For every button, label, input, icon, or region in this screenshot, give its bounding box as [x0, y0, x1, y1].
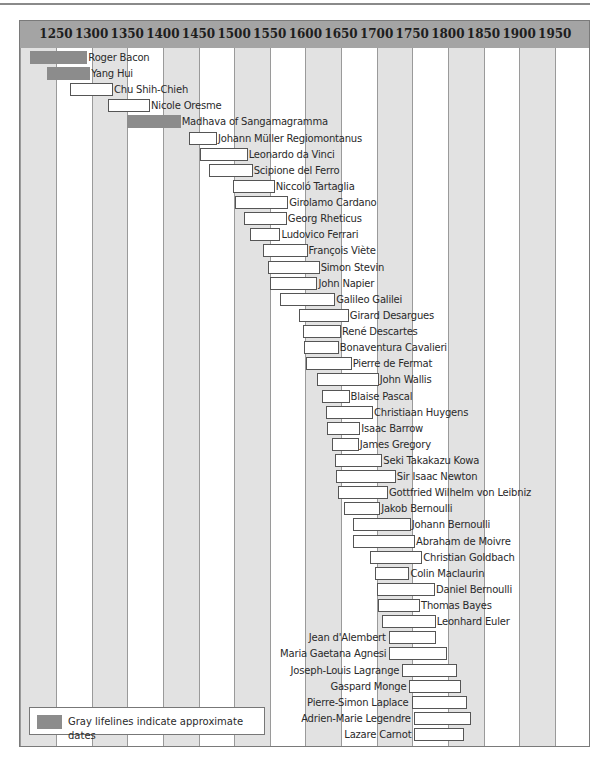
lifeline-label: René Descartes	[342, 325, 418, 338]
year-tick-1850: 1850	[464, 27, 504, 41]
lifeline-label: Isaac Barrow	[361, 422, 423, 435]
lifeline-label: Girard Desargues	[350, 309, 434, 322]
lifeline-bar	[336, 470, 396, 483]
lifeline-bar	[344, 502, 380, 515]
lifeline-bar	[70, 83, 113, 96]
year-tick-1900: 1900	[499, 27, 539, 41]
gridline-1350	[127, 48, 128, 746]
lifeline-label: Thomas Bayes	[421, 599, 492, 612]
stripe-1300	[92, 48, 128, 746]
lifeline-bar	[370, 551, 423, 564]
legend-swatch-approx	[37, 715, 62, 729]
lifeline-bar	[209, 164, 252, 177]
lifeline-label: Georg Rheticus	[288, 212, 362, 225]
lifeline-bar	[268, 261, 319, 274]
lifeline-label: Bonaventura Cavalieri	[340, 341, 447, 354]
year-tick-1400: 1400	[143, 27, 183, 41]
lifeline-bar	[47, 67, 90, 80]
lifeline-bar	[335, 454, 382, 467]
year-axis-header: 1250130013501400145015001550160016501700…	[20, 21, 589, 48]
lifeline-bar	[375, 567, 409, 580]
lifeline-bar	[244, 212, 287, 225]
lifeline-bar	[377, 583, 435, 596]
lifeline-label: Jakob Bernoulli	[381, 502, 452, 515]
lifeline-label: Christiaan Huygens	[374, 406, 468, 419]
lifeline-bar	[303, 325, 341, 338]
lifeline-bar	[233, 180, 274, 193]
year-tick-1550: 1550	[250, 27, 290, 41]
lifeline-label: Yang Hui	[91, 67, 133, 80]
lifeline-label: Scipione del Ferro	[254, 164, 340, 177]
lifeline-bar	[299, 309, 349, 322]
lifeline-bar	[280, 293, 336, 306]
lifeline-label: Maria Gaetana Agnesi	[280, 647, 386, 660]
lifeline-bar	[270, 277, 318, 290]
legend: Gray lifelines indicate approximate date…	[29, 707, 265, 735]
lifeline-bar	[200, 148, 248, 161]
lifeline-label: Adrien-Marie Legendre	[301, 712, 411, 725]
lifeline-label: Sir Isaac Newton	[397, 470, 478, 483]
lifeline-label: Seki Takakazu Kowa	[383, 454, 479, 467]
year-tick-1800: 1800	[428, 27, 468, 41]
lifeline-label: Madhava of Sangamagramma	[182, 115, 328, 128]
stripe-1350	[127, 48, 163, 746]
lifeline-bar	[326, 406, 373, 419]
lifeline-label: Ludovico Ferrari	[281, 228, 358, 241]
lifeline-bar	[409, 680, 460, 693]
lifeline-bar	[378, 599, 420, 612]
year-tick-1300: 1300	[72, 27, 112, 41]
top-rule	[0, 3, 590, 5]
lifeline-bar	[412, 696, 468, 709]
lifeline-label: Gottfried Wilhelm von Leibniz	[389, 486, 531, 499]
lifeline-bar	[108, 99, 150, 112]
legend-label: Gray lifelines indicate approximate date…	[68, 715, 264, 743]
lifeline-label: John Wallis	[380, 373, 432, 386]
gridline-1900	[519, 48, 520, 746]
lifeline-label: James Gregory	[360, 438, 431, 451]
lifeline-bar	[414, 728, 464, 741]
year-tick-1450: 1450	[179, 27, 219, 41]
lifeline-label: John Napier	[318, 277, 374, 290]
stripe-1900	[519, 48, 555, 746]
lifeline-bar	[332, 438, 358, 451]
gridline-1850	[484, 48, 485, 746]
stripe-1800	[448, 48, 484, 746]
lifeline-label: Blaise Pascal	[351, 390, 413, 403]
lifeline-label: Joseph-Louis Lagrange	[291, 664, 400, 677]
lifeline-label: Leonhard Euler	[437, 615, 510, 628]
lifeline-bar	[402, 664, 457, 677]
stripe-1250	[56, 48, 92, 746]
lifeline-label: Colin Maclaurin	[410, 567, 484, 580]
stripe-1950	[555, 48, 590, 746]
lifeline-bar	[322, 390, 350, 403]
year-tick-1650: 1650	[321, 27, 361, 41]
lifeline-bar	[263, 244, 308, 257]
lifeline-label: Pierre de Fermat	[353, 357, 432, 370]
lifeline-label: Johann Bernoulli	[412, 518, 490, 531]
lifeline-bar	[389, 647, 447, 660]
lifeline-bar	[304, 341, 339, 354]
lifeline-bar	[306, 357, 352, 370]
timeline-chart: 1250130013501400145015001550160016501700…	[19, 20, 590, 747]
lifeline-label: Pierre-Simon Laplace	[307, 696, 408, 709]
lifeline-label: Christian Goldbach	[423, 551, 514, 564]
lifeline-label: Gaspard Monge	[330, 680, 406, 693]
lifeline-label: Johann Müller Regiomontanus	[218, 132, 362, 145]
lifeline-label: Abraham de Moivre	[416, 535, 511, 548]
lifeline-label: Chu Shih-Chieh	[114, 83, 188, 96]
year-tick-1950: 1950	[535, 27, 575, 41]
gridline-1400	[163, 48, 164, 746]
stripe-1400	[163, 48, 199, 746]
lifeline-bar	[338, 486, 388, 499]
year-tick-1600: 1600	[285, 27, 325, 41]
gridline-1950	[555, 48, 556, 746]
year-tick-1500: 1500	[214, 27, 254, 41]
lifeline-label: Jean d'Alembert	[309, 631, 386, 644]
lifeline-bar	[250, 228, 281, 241]
lifeline-bar	[30, 51, 87, 64]
lifeline-label: Lazare Carnot	[344, 728, 411, 741]
year-tick-1750: 1750	[392, 27, 432, 41]
lifeline-bar	[235, 196, 288, 209]
year-tick-1350: 1350	[107, 27, 147, 41]
lifeline-label: Roger Bacon	[88, 51, 149, 64]
